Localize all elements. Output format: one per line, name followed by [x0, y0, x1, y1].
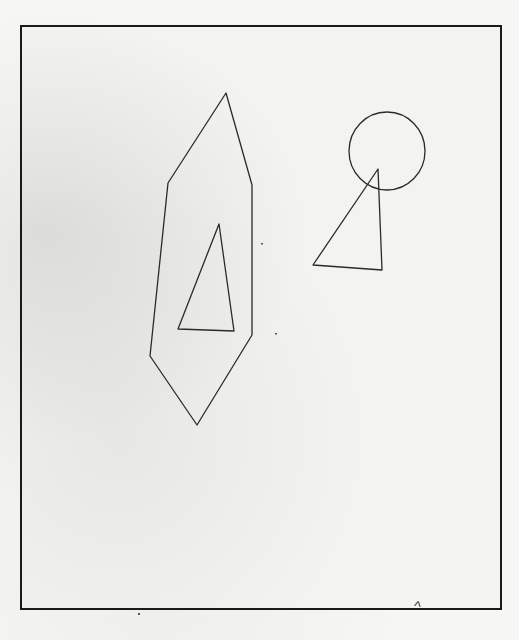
- right-triangle: [313, 169, 382, 270]
- tall-hexagon: [150, 93, 252, 425]
- circle: [349, 112, 425, 190]
- speck: [138, 613, 140, 615]
- speck: [261, 243, 263, 245]
- inner-triangle: [178, 224, 234, 331]
- sketch-canvas: [0, 0, 519, 640]
- speck: [275, 333, 277, 335]
